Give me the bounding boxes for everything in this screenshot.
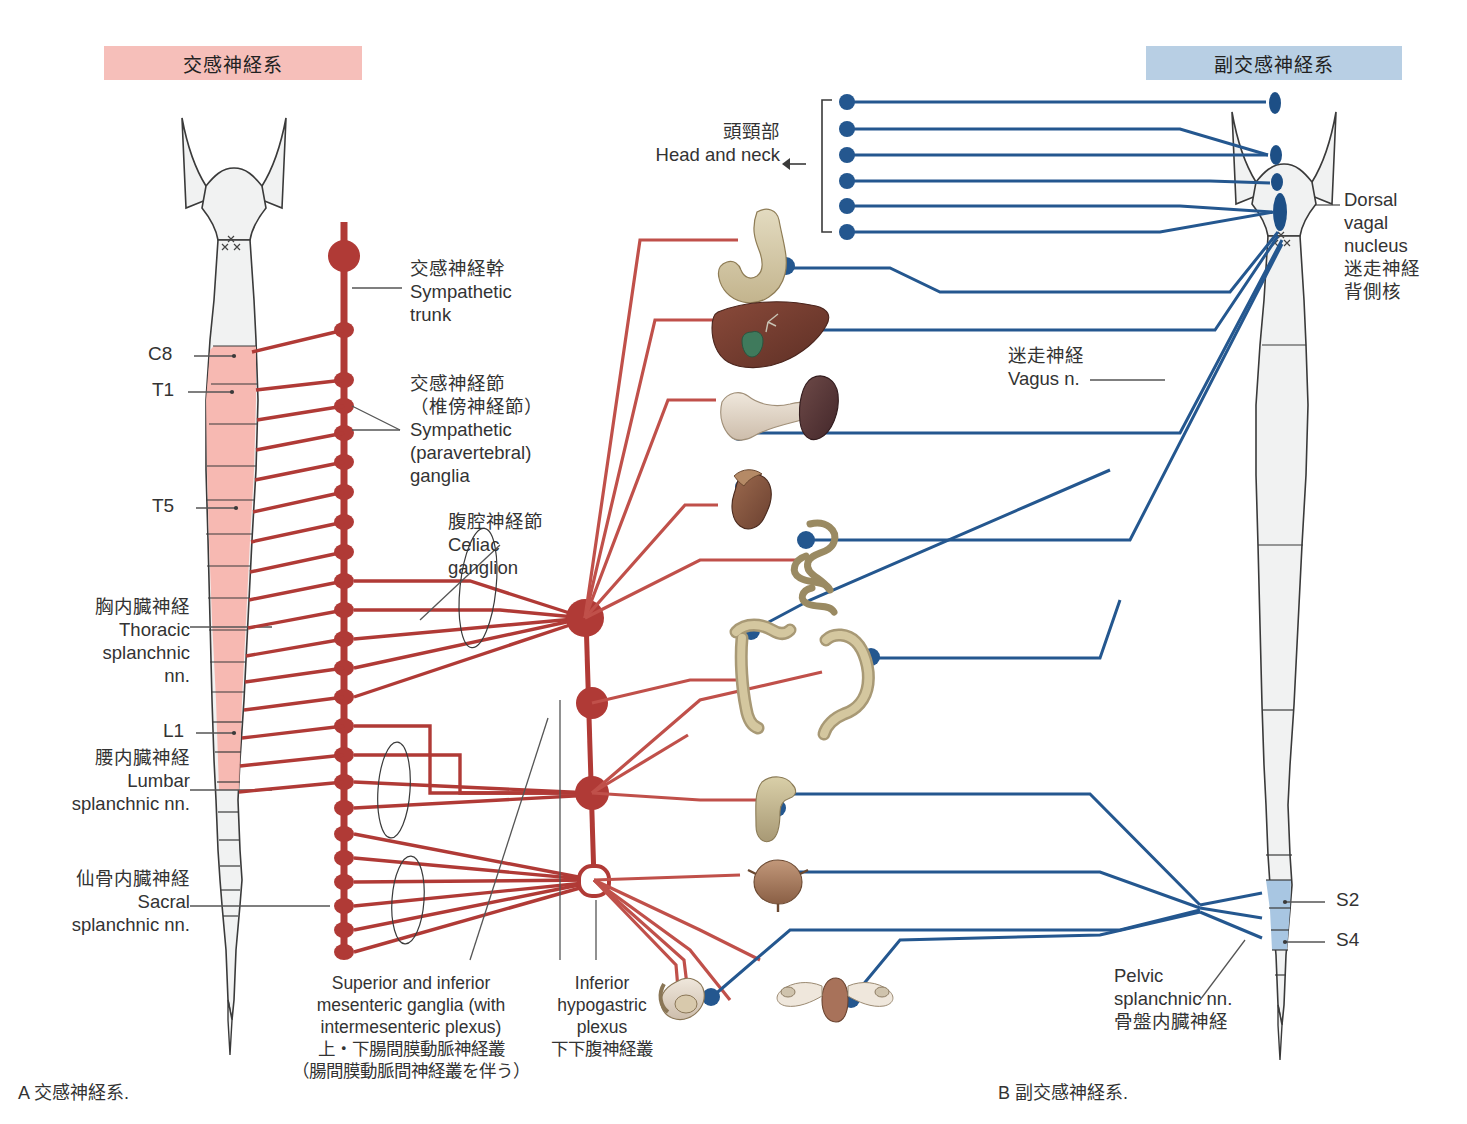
superior-salivatory-nucleus — [1270, 145, 1282, 165]
pelvic-splanchnic-label: Pelvic splanchnic nn. 骨盤内臓神経 — [1114, 964, 1232, 1033]
panel-a-caption: A 交感神経系. — [18, 1078, 129, 1104]
small-intestine-terminal — [797, 531, 815, 549]
urinary-bladder-illustration — [748, 860, 808, 912]
descending-colon-illustration — [824, 635, 868, 734]
stomach-illustration — [718, 209, 786, 303]
pelvic-splanchnic-nerves — [1200, 893, 1262, 938]
liver-illustration — [712, 302, 829, 368]
thoracic-splanchnic-nerves — [354, 581, 585, 697]
female-genitalia-illustration — [777, 978, 893, 1022]
sacral-splanchnic-nerves — [354, 834, 594, 952]
vagus-nerve-label: 迷走神経 Vagus n. — [1008, 344, 1084, 390]
superior-cervical-ganglion — [328, 240, 360, 272]
segment-label-t5: T5 — [152, 495, 174, 517]
sympathetic-trunk-label: 交感神経幹 Sympathetic trunk — [410, 257, 512, 326]
segment-label-c8: C8 — [148, 343, 172, 365]
edinger-westphal-nucleus — [1269, 92, 1281, 114]
panel-b-caption: B 副交感神経系. — [998, 1078, 1128, 1104]
male-genitalia-illustration — [661, 978, 705, 1019]
prevertebral-ganglia — [566, 599, 609, 896]
lumbar-splanchnic-nerves — [354, 726, 592, 808]
diagram-vectors — [0, 0, 1467, 1124]
ascending-colon-illustration — [736, 625, 790, 728]
sacral-splanchnic-label: 仙骨内臓神経 Sacral splanchnic nn. — [14, 867, 190, 936]
figure-canvas: 交感神経系 副交感神経系 — [0, 0, 1467, 1124]
celiac-ganglion-label: 腹腔神経節 Celiac ganglion — [448, 510, 543, 579]
mesenteric-ganglia-label: Superior and inferior mesenteric ganglia… — [282, 972, 540, 1082]
head-neck-bracket — [782, 100, 832, 232]
head-and-neck-label: 頭頸部 Head and neck — [608, 120, 780, 166]
outflow-origin-dots — [839, 94, 855, 240]
sympathetic-ganglia-label: 交感神経節 （椎傍神経節） Sympathetic (paravertebral… — [410, 372, 543, 487]
thoracic-splanchnic-label: 胸内臓神経 Thoracic splanchnic nn. — [30, 595, 190, 687]
spleen — [800, 376, 839, 440]
sympathetic-spinal-cord — [182, 118, 286, 1055]
dorsal-vagal-nucleus-label: Dorsal vagal nucleus 迷走神経 背側核 — [1344, 188, 1420, 303]
segment-label-s2: S2 — [1336, 889, 1359, 911]
kidney-illustration — [732, 470, 771, 529]
segment-label-t1: T1 — [152, 379, 174, 401]
inferior-hypogastric-plexus-label: Inferior hypogastric plexus 下下腹神経叢 — [538, 972, 666, 1060]
inferior-salivatory-nucleus — [1271, 173, 1283, 191]
lumbar-splanchnic-label: 腰内臓神経 Lumbar splanchnic nn. — [14, 746, 190, 815]
segment-label-l1: L1 — [163, 720, 184, 742]
rectum-illustration — [756, 777, 796, 842]
dorsal-vagal-nucleus-marker — [1273, 193, 1287, 231]
cranial-parasympathetic-outflow — [850, 102, 1274, 232]
pancreas-illustration — [721, 376, 839, 440]
segment-label-s4: S4 — [1336, 929, 1359, 951]
